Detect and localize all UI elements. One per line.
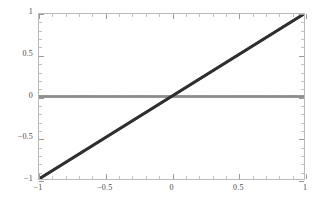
x-tick-minor-top: [253, 14, 254, 17]
y-tick-major-right: [299, 56, 304, 57]
y-tick-minor: [39, 106, 42, 107]
y-tick-minor-right: [301, 123, 304, 124]
y-tick-minor: [39, 39, 42, 40]
x-tick-minor: [199, 176, 200, 179]
y-tick-minor-right: [301, 81, 304, 82]
x-tick-minor-top: [213, 14, 214, 17]
y-tick-major-right: [299, 181, 304, 182]
y-tick-minor: [39, 64, 42, 65]
x-tick-minor-top: [279, 14, 280, 17]
x-tick-minor: [52, 176, 53, 179]
series-svg: [39, 14, 304, 179]
y-tick-minor-right: [301, 148, 304, 149]
y-tick-minor: [39, 81, 42, 82]
y-tick-minor-right: [301, 73, 304, 74]
x-tick-minor: [253, 176, 254, 179]
y-tick-minor-right: [301, 22, 304, 23]
x-tick-minor: [279, 176, 280, 179]
y-tick-minor: [39, 22, 42, 23]
x-tick-minor: [66, 176, 67, 179]
x-tick-minor: [293, 176, 294, 179]
x-tick-major: [239, 174, 240, 179]
y-tick-minor: [39, 164, 42, 165]
x-tick-minor: [159, 176, 160, 179]
x-tick-minor-top: [52, 14, 53, 17]
x-tick-minor-top: [159, 14, 160, 17]
series-layer: [39, 14, 304, 179]
chart-figure: −1−0.500.51 −1−0.500.51: [0, 0, 326, 207]
y-tick-minor-right: [301, 131, 304, 132]
x-tick-minor: [92, 176, 93, 179]
x-tick-minor-top: [92, 14, 93, 17]
y-tick-minor-right: [301, 106, 304, 107]
y-tick-major: [39, 98, 44, 99]
x-tick-minor: [266, 176, 267, 179]
y-tick-minor: [39, 47, 42, 48]
y-tick-minor: [39, 156, 42, 157]
x-tick-minor-top: [186, 14, 187, 17]
y-tick-minor-right: [301, 114, 304, 115]
x-tick-major-top: [106, 14, 107, 19]
x-tick-major: [173, 174, 174, 179]
plot-area: [38, 13, 305, 180]
x-tick-minor: [226, 176, 227, 179]
x-tick-major-top: [306, 14, 307, 19]
y-tick-minor-right: [301, 31, 304, 32]
x-tick-label: 0: [169, 183, 173, 192]
x-tick-minor-top: [293, 14, 294, 17]
y-tick-minor: [39, 89, 42, 90]
y-tick-major: [39, 181, 44, 182]
x-tick-minor: [79, 176, 80, 179]
y-tick-minor-right: [301, 64, 304, 65]
y-tick-minor-right: [301, 89, 304, 90]
x-tick-minor-top: [132, 14, 133, 17]
x-tick-minor: [119, 176, 120, 179]
x-tick-minor-top: [66, 14, 67, 17]
x-tick-minor-top: [119, 14, 120, 17]
y-tick-minor: [39, 148, 42, 149]
x-tick-minor-top: [79, 14, 80, 17]
x-tick-label: 0.5: [233, 183, 244, 192]
y-tick-major-right: [299, 98, 304, 99]
y-tick-major: [39, 139, 44, 140]
y-tick-minor: [39, 114, 42, 115]
x-tick-minor-top: [266, 14, 267, 17]
y-tick-major: [39, 56, 44, 57]
x-tick-minor: [146, 176, 147, 179]
x-tick-major: [106, 174, 107, 179]
x-tick-major: [306, 174, 307, 179]
y-tick-minor: [39, 73, 42, 74]
x-tick-minor: [132, 176, 133, 179]
y-tick-major-right: [299, 139, 304, 140]
y-tick-minor-right: [301, 173, 304, 174]
x-tick-minor: [186, 176, 187, 179]
x-tick-major-top: [173, 14, 174, 19]
x-tick-label: −0.5: [97, 183, 112, 192]
x-tick-minor-top: [226, 14, 227, 17]
y-tick-minor-right: [301, 39, 304, 40]
y-tick-minor: [39, 173, 42, 174]
y-tick-minor-right: [301, 47, 304, 48]
x-tick-label: 1: [303, 183, 307, 192]
y-tick-major-right: [299, 14, 304, 15]
y-tick-minor: [39, 123, 42, 124]
x-tick-minor-top: [146, 14, 147, 17]
y-tick-minor: [39, 131, 42, 132]
x-tick-minor-top: [199, 14, 200, 17]
x-tick-major-top: [239, 14, 240, 19]
y-tick-minor-right: [301, 156, 304, 157]
x-tick-major: [39, 174, 40, 179]
y-tick-major: [39, 14, 44, 15]
x-tick-minor: [213, 176, 214, 179]
y-tick-minor: [39, 31, 42, 32]
y-tick-minor-right: [301, 164, 304, 165]
x-tick-label: −1: [34, 183, 43, 192]
